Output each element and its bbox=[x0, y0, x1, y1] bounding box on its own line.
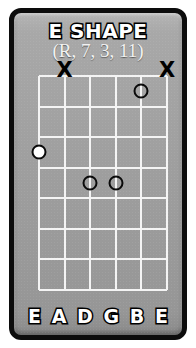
string-label-5: E bbox=[155, 307, 168, 326]
chord-diagram-card: E SHAPE (R, 7, 3, 11) XX EADGBE bbox=[9, 8, 187, 340]
string-label-row: EADGBE bbox=[14, 307, 182, 326]
muted-string-x-A-1: X bbox=[56, 60, 72, 81]
fret-line-5 bbox=[39, 228, 167, 230]
string-label-3: G bbox=[104, 307, 120, 326]
string-label-2: D bbox=[77, 307, 93, 326]
string-label-0: E bbox=[28, 307, 41, 326]
diagram-subtitle: (R, 7, 3, 11) bbox=[14, 40, 182, 62]
fret-line-3 bbox=[39, 167, 167, 169]
fret-line-1 bbox=[39, 106, 167, 108]
string-label-4: B bbox=[130, 307, 144, 326]
fret-line-7 bbox=[39, 289, 167, 291]
note-marker-G-fret4-11 bbox=[108, 176, 123, 191]
note-marker-D-fret4-3 bbox=[83, 176, 98, 191]
note-marker-E-fret3-R bbox=[32, 145, 47, 160]
fret-line-6 bbox=[39, 258, 167, 260]
fret-line-4 bbox=[39, 197, 167, 199]
fret-line-2 bbox=[39, 136, 167, 138]
muted-string-x-E-5: X bbox=[159, 60, 175, 81]
note-marker-B-fret1-7 bbox=[134, 84, 149, 99]
string-label-1: A bbox=[52, 307, 67, 326]
